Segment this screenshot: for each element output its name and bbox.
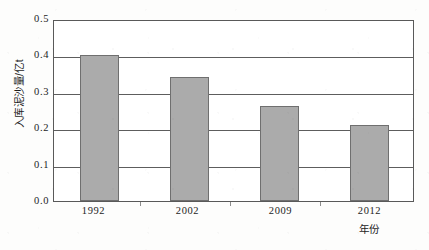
x-axis-title: 年份 — [335, 221, 405, 236]
bar — [260, 106, 299, 201]
y-axis-tick-labels: 0.5 0.4 0.3 0.2 0.1 0.0 — [0, 20, 49, 202]
x-axis-tick — [140, 202, 141, 206]
y-tick-label: 0.5 — [0, 13, 49, 26]
y-tick-label: 0.4 — [0, 49, 49, 62]
x-tick-label: 2009 — [246, 205, 316, 216]
y-tick-label: 0.2 — [0, 122, 49, 135]
bar — [170, 77, 209, 201]
x-tick-label: 1992 — [59, 205, 129, 216]
bar-chart: 入库泥沙量/亿t 0.5 0.4 0.3 0.2 0.1 0.0 1992 20… — [0, 0, 429, 250]
x-tick-label: 2002 — [153, 205, 223, 216]
plot-area — [53, 20, 414, 202]
bar — [80, 55, 119, 201]
x-axis-tick — [230, 202, 231, 206]
y-tick-label: 0.0 — [0, 195, 49, 208]
x-axis-tick — [320, 202, 321, 206]
x-tick-label: 2012 — [335, 205, 405, 216]
y-tick-label: 0.3 — [0, 86, 49, 99]
bar — [350, 125, 389, 201]
y-tick-label: 0.1 — [0, 159, 49, 172]
